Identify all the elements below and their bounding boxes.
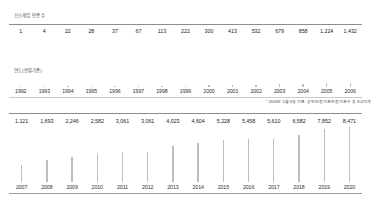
value-cell: 5,228: [211, 117, 236, 125]
section-two-bar-band: [0, 76, 371, 87]
year-label: 2005: [315, 87, 339, 95]
bar-cell: [59, 127, 84, 182]
section-two-year-row: 1992 1993 1994 1995 1996 1997 1998 1999 …: [0, 87, 371, 95]
value-cell: 4,604: [186, 117, 211, 125]
bar-cell: [9, 76, 33, 87]
year-label: 2018: [286, 183, 311, 191]
bar-cell: [85, 127, 110, 182]
bar-cell: [160, 127, 185, 182]
value-cell: 4,023: [160, 117, 185, 125]
year-label: 2001: [221, 87, 245, 95]
bar: [122, 152, 123, 182]
value-cell: 532: [244, 27, 268, 35]
year-label: 2014: [186, 183, 211, 191]
value-cell: 1,432: [338, 27, 362, 35]
value-cell: 858: [291, 27, 315, 35]
year-label: 1994: [56, 87, 80, 95]
section-three-bar-band: [0, 127, 371, 182]
section-one-value-row: 1 4 22 28 37 67 113 222 300 413 532 679 …: [0, 27, 371, 35]
section-three-year-row: 2007 2008 2009 2010 2011 2012 2013 2014 …: [0, 183, 371, 191]
value-cell: 37: [103, 27, 127, 35]
year-label: 2020: [337, 183, 362, 191]
section-three-value-row: 1,121 1,693 2,246 2,582 3,061 3,061 4,02…: [0, 117, 371, 125]
bar-cell: [261, 127, 286, 182]
bar: [298, 135, 299, 183]
value-cell: 67: [127, 27, 151, 35]
bar-cell: [286, 127, 311, 182]
value-cell: 3,061: [110, 117, 135, 125]
value-cell: 28: [80, 27, 104, 35]
year-label: 2007: [9, 183, 34, 191]
bar-cell: [236, 127, 261, 182]
bar-cell: [174, 76, 198, 87]
footnote: * 2020년 5월 6일 기준. 공인인증기관인증기관수 총 8,471개: [0, 99, 371, 105]
bar-cell: [56, 76, 80, 87]
bar: [324, 129, 325, 182]
bar-cell: [103, 76, 127, 87]
value-cell: 2,246: [59, 117, 84, 125]
year-label: 2006: [338, 87, 362, 95]
section-two-label: 연도(연말기준): [0, 68, 371, 74]
year-label: 2002: [244, 87, 268, 95]
bar: [147, 152, 148, 182]
bar-cell: [34, 127, 59, 182]
value-cell: 413: [221, 27, 245, 35]
bar-cell: [315, 76, 339, 87]
value-cell: 679: [268, 27, 292, 35]
section-three-divider-top: [9, 113, 362, 114]
bar-cell: [9, 127, 34, 182]
value-cell: 8,471: [337, 117, 362, 125]
value-cell: 6,582: [286, 117, 311, 125]
value-cell: 1,121: [9, 117, 34, 125]
bar-cell: [127, 76, 151, 87]
value-cell: 7,852: [312, 117, 337, 125]
bar-cell: [337, 127, 362, 182]
bar: [248, 139, 249, 182]
value-cell: 5,610: [261, 117, 286, 125]
bar: [97, 154, 98, 182]
value-cell: 2,582: [85, 117, 110, 125]
year-label: 1998: [150, 87, 174, 95]
year-label: 2012: [135, 183, 160, 191]
year-label: 1999: [174, 87, 198, 95]
value-cell: 113: [150, 27, 174, 35]
year-label: 2000: [197, 87, 221, 95]
year-label: 2009: [59, 183, 84, 191]
bar: [71, 157, 72, 182]
year-label: 1995: [80, 87, 104, 95]
bar-cell: [291, 76, 315, 87]
year-label: 1992: [9, 87, 33, 95]
value-cell: 222: [174, 27, 198, 35]
year-label: 2003: [268, 87, 292, 95]
year-label: 2008: [34, 183, 59, 191]
bar-cell: [33, 76, 57, 87]
statistics-timeline-chart: 신소재업 인증 수 1 4 22 28 37 67 113 222 300 41…: [0, 0, 371, 205]
bar: [223, 140, 224, 182]
value-cell: 300: [197, 27, 221, 35]
year-label: 2016: [236, 183, 261, 191]
year-label: 2019: [312, 183, 337, 191]
year-label: 1996: [103, 87, 127, 95]
bar: [172, 146, 173, 182]
year-label: 2011: [110, 183, 135, 191]
year-label: 2013: [160, 183, 185, 191]
value-cell: 22: [56, 27, 80, 35]
bar: [197, 143, 198, 182]
bar-cell: [197, 76, 221, 87]
bar-cell: [221, 76, 245, 87]
value-cell: 1: [9, 27, 33, 35]
bar: [273, 139, 274, 182]
bar-cell: [268, 76, 292, 87]
year-label: 2010: [85, 183, 110, 191]
bar-cell: [338, 76, 362, 87]
value-cell: 3,061: [135, 117, 160, 125]
bar-cell: [186, 127, 211, 182]
year-label: 1993: [33, 87, 57, 95]
year-label: 2004: [291, 87, 315, 95]
bar-cell: [312, 127, 337, 182]
bar-cell: [110, 127, 135, 182]
bar-cell: [244, 76, 268, 87]
bar-cell: [150, 76, 174, 87]
year-label: 2017: [261, 183, 286, 191]
bar: [46, 160, 47, 182]
